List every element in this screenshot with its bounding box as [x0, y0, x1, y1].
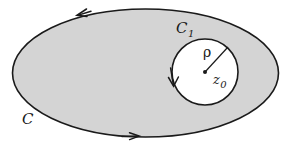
label-inner-contour-sub: 1	[188, 28, 194, 39]
shaded-region	[0, 0, 290, 154]
contour-diagram: C C1 ρ z0	[0, 0, 290, 154]
label-center-point-main: z	[212, 72, 220, 87]
label-center-point-sub: 0	[220, 79, 227, 90]
center-dot	[203, 70, 207, 74]
label-inner-contour-main: C	[176, 19, 188, 37]
figure-container: C C1 ρ z0	[0, 0, 290, 154]
label-radius-rho: ρ	[203, 44, 211, 60]
label-outer-contour: C	[22, 110, 34, 128]
